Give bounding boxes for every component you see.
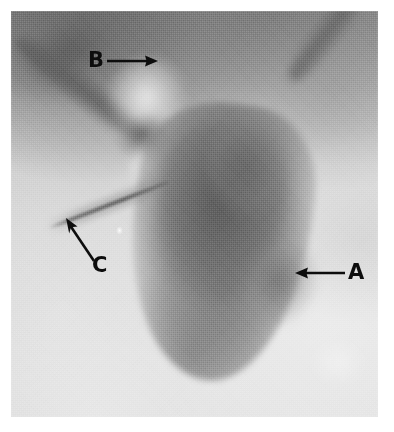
film-speck-artifact (115, 225, 124, 236)
figure-root: A B C (0, 0, 394, 432)
radiograph-plate (11, 11, 378, 417)
film-lucency-lower-right (303, 333, 373, 393)
